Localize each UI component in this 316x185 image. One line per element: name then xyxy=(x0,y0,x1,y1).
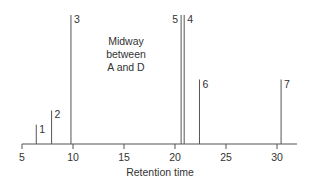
x-tick-label: 25 xyxy=(220,151,232,163)
x-axis-label: Retention time xyxy=(126,166,194,178)
annotation-line-1: Midway xyxy=(108,35,144,47)
x-tick-label: 5 xyxy=(19,151,25,163)
peak-label-2: 2 xyxy=(55,108,61,120)
x-tick-label: 10 xyxy=(67,151,79,163)
peaks-group: 1235467 xyxy=(36,13,290,144)
annotation-line-3: A and D xyxy=(107,61,145,73)
chromatogram-chart: 1235467 51015202530 Retention time Midwa… xyxy=(0,0,316,185)
peak-label-7: 7 xyxy=(284,78,290,90)
x-tick-label: 15 xyxy=(118,151,130,163)
peak-label-5: 5 xyxy=(172,13,178,25)
annotation-line-2: between xyxy=(106,48,146,60)
peak-label-3: 3 xyxy=(74,13,80,25)
x-tick-label: 30 xyxy=(271,151,283,163)
peak-label-4: 4 xyxy=(187,13,193,25)
x-tick-label: 20 xyxy=(169,151,181,163)
peak-label-6: 6 xyxy=(202,78,208,90)
x-axis-ticks: 51015202530 xyxy=(19,144,283,163)
peak-label-1: 1 xyxy=(39,123,45,135)
